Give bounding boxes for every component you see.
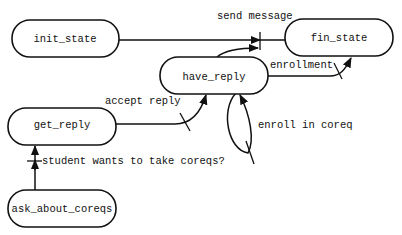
state-diagram: send message enrollment accept reply enr… xyxy=(0,0,402,235)
edge-label-enroll-in-coreq: enroll in coreq xyxy=(258,119,353,131)
svg-text:init_state: init_state xyxy=(33,33,96,45)
edge-have-reply-self-loop xyxy=(227,93,254,164)
edge-label-enrollment: enrollment xyxy=(270,59,333,71)
svg-text:have_reply: have_reply xyxy=(182,71,245,83)
edge-init-to-fin xyxy=(119,32,285,50)
svg-text:ask_about_coreqs: ask_about_coreqs xyxy=(12,203,113,215)
svg-text:fin_state: fin_state xyxy=(311,32,368,44)
node-ask-about-coreqs: ask_about_coreqs xyxy=(8,190,116,227)
node-fin-state: fin_state xyxy=(285,19,393,56)
edge-have-reply-to-fin-upper xyxy=(217,48,258,57)
edge-ask-to-get-reply xyxy=(27,146,42,190)
svg-text:get_reply: get_reply xyxy=(34,119,91,131)
edge-label-send-message: send message xyxy=(217,10,293,22)
node-get-reply: get_reply xyxy=(8,108,116,145)
node-init-state: init_state xyxy=(12,20,119,57)
edge-label-accept-reply: accept reply xyxy=(105,95,181,107)
node-have-reply: have_reply xyxy=(160,57,268,94)
edge-label-student-wants-coreqs: student wants to take coreqs? xyxy=(42,155,225,167)
